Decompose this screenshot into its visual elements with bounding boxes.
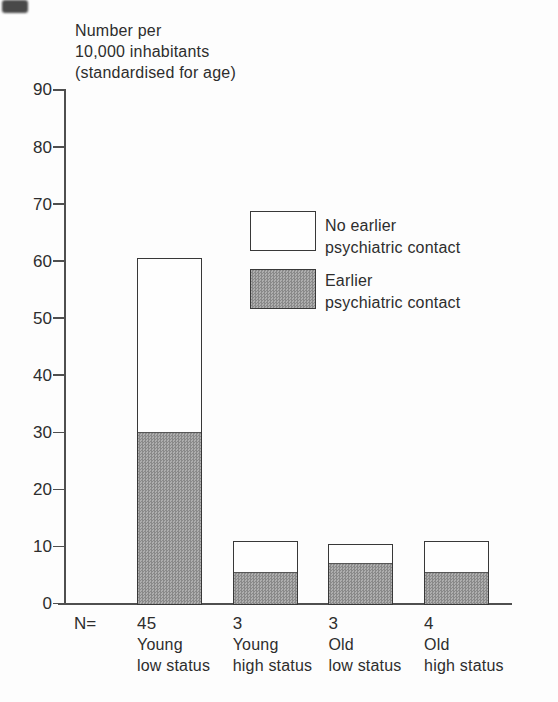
y-tick-label: 20 — [8, 481, 52, 498]
legend-label-line: psychiatric contact — [325, 237, 460, 259]
category-label-line: Young — [233, 634, 328, 655]
y-tick — [53, 489, 64, 491]
category-label-line: low status — [137, 655, 232, 676]
legend-swatch-gray — [250, 269, 316, 309]
category-n-value: 4 — [424, 613, 519, 634]
y-tick-label: 30 — [8, 424, 52, 441]
y-tick — [53, 203, 64, 205]
legend-label-line: psychiatric contact — [325, 292, 460, 314]
y-tick — [53, 89, 64, 91]
category-n-value: 45 — [137, 613, 232, 634]
category-label: 3Younghigh status — [233, 613, 328, 676]
category-label-line: Young — [137, 634, 232, 655]
category-n-value: 3 — [328, 613, 423, 634]
y-tick — [53, 603, 64, 605]
legend-swatch-white — [250, 211, 316, 251]
category-label-line: Old — [328, 634, 423, 655]
bar-segment-earlier — [138, 432, 201, 604]
y-tick-label: 40 — [8, 367, 52, 384]
y-tick — [53, 260, 64, 262]
category-n-value: 3 — [233, 613, 328, 634]
category-label: 3Oldlow status — [328, 613, 423, 676]
legend-label-no-earlier: No earlier psychiatric contact — [325, 215, 460, 259]
bar-segment-earlier — [329, 563, 392, 604]
y-tick — [53, 374, 64, 376]
plot-area: 0102030405060708090 — [0, 0, 558, 702]
bar — [233, 541, 298, 605]
bar-segment-earlier — [234, 572, 297, 604]
legend-label-earlier: Earlier psychiatric contact — [325, 270, 460, 314]
bar — [137, 258, 202, 605]
category-label-line: low status — [328, 655, 423, 676]
y-axis-line — [64, 89, 66, 604]
y-tick — [53, 317, 64, 319]
y-tick-label: 60 — [8, 253, 52, 270]
legend-label-line: No earlier — [325, 215, 460, 237]
bar — [424, 541, 489, 605]
y-tick — [53, 432, 64, 434]
y-tick-label: 80 — [8, 139, 52, 156]
category-label-line: Old — [424, 634, 519, 655]
y-tick-label: 10 — [8, 538, 52, 555]
bar-segment-earlier — [425, 572, 488, 604]
y-tick — [53, 146, 64, 148]
y-tick-label: 70 — [8, 196, 52, 213]
bar — [328, 544, 393, 606]
category-label-line: high status — [424, 655, 519, 676]
y-tick-label: 90 — [8, 81, 52, 98]
category-label: 4Oldhigh status — [424, 613, 519, 676]
y-tick — [53, 546, 64, 548]
y-tick-label: 0 — [8, 595, 52, 612]
n-equals-label: N= — [74, 613, 96, 634]
figure-page: Number per 10,000 inhabitants (standardi… — [0, 0, 558, 702]
category-label-line: high status — [233, 655, 328, 676]
y-tick-label: 50 — [8, 310, 52, 327]
legend-label-line: Earlier — [325, 270, 460, 292]
category-label: 45Younglow status — [137, 613, 232, 676]
